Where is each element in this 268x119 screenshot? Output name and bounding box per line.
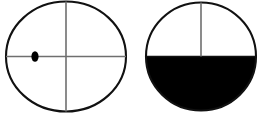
left-circle-marker-dot	[31, 51, 38, 61]
two-circle-diagram	[0, 0, 268, 119]
figure-container	[0, 0, 268, 119]
left-circle-group	[6, 2, 126, 112]
